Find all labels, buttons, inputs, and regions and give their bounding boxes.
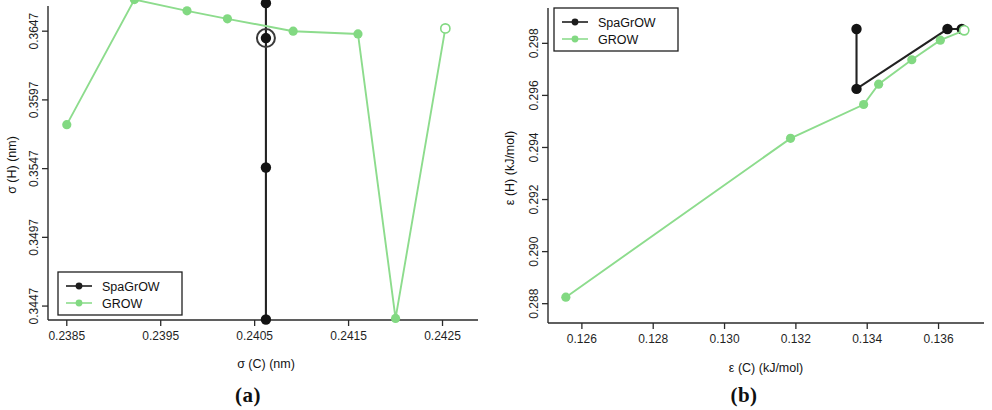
legend-sample-marker-1	[572, 36, 579, 43]
panel-b: 0.1260.1280.1300.1320.1340.1360.2880.290…	[496, 0, 992, 410]
data-point-grow-5	[936, 36, 945, 45]
data-point-spagrow-3	[261, 314, 271, 324]
legend-label-1: GROW	[102, 297, 142, 311]
y-tick-label-4: 0.3647	[27, 13, 41, 50]
panel-a-x-axis-label: σ (C) (nm)	[237, 357, 295, 371]
panel-b-caption: (b)	[496, 383, 992, 408]
data-point-grow-3	[874, 80, 883, 89]
data-point-grow-4	[907, 55, 916, 64]
y-tick-label-5: 0.298	[527, 28, 541, 58]
series-line-grow	[67, 0, 446, 318]
x-tick-label-1: 0.2395	[142, 329, 179, 343]
data-point-spagrow-1	[261, 33, 271, 43]
panel-b-series	[561, 24, 969, 302]
y-tick-label-2: 0.292	[527, 184, 541, 214]
data-point-grow-4	[289, 27, 298, 36]
legend-sample-marker-0	[572, 19, 579, 26]
data-point-grow-5	[353, 29, 362, 38]
data-point-grow-7	[441, 24, 450, 33]
data-point-grow-3	[223, 14, 232, 23]
y-tick-label-4: 0.296	[527, 80, 541, 110]
x-tick-label-0: 0.2385	[48, 329, 85, 343]
data-point-grow-6	[391, 314, 400, 323]
data-point-grow-2	[182, 6, 191, 15]
x-tick-label-3: 0.2415	[330, 329, 367, 343]
y-tick-label-1: 0.290	[527, 236, 541, 266]
data-point-spagrow-0	[261, 0, 271, 8]
data-point-grow-1	[786, 134, 795, 143]
x-tick-label-3: 0.132	[781, 332, 811, 346]
panel-a-legend: SpaGrOWGROW	[58, 272, 182, 315]
data-point-spagrow-2	[261, 162, 271, 172]
series-line-grow	[566, 30, 964, 297]
data-point-spagrow-2	[942, 24, 952, 34]
data-point-spagrow-1	[851, 84, 861, 94]
data-point-spagrow-0	[851, 24, 861, 34]
legend-sample-marker-1	[76, 300, 83, 307]
data-point-grow-0	[561, 293, 570, 302]
panel-a-caption: (a)	[0, 383, 496, 408]
panel-b-y-axis-label: ε (H) (kJ/mol)	[503, 131, 517, 205]
legend-label-1: GROW	[598, 33, 638, 47]
figure-root: 0.23850.23950.24050.24150.24250.34470.34…	[0, 0, 992, 410]
panel-b-x-axis-label: ε (C) (kJ/mol)	[729, 361, 803, 375]
data-point-grow-0	[62, 120, 71, 129]
legend-label-0: SpaGrOW	[102, 280, 160, 294]
x-tick-label-2: 0.2405	[236, 329, 273, 343]
y-tick-label-2: 0.3547	[27, 150, 41, 187]
y-tick-label-0: 0.3447	[27, 287, 41, 324]
y-tick-label-0: 0.288	[527, 288, 541, 318]
x-tick-label-2: 0.130	[710, 332, 740, 346]
panel-b-plot: 0.1260.1280.1300.1320.1340.1360.2880.290…	[496, 0, 992, 380]
panel-a: 0.23850.23950.24050.24150.24250.34470.34…	[0, 0, 496, 410]
y-tick-label-1: 0.3497	[27, 219, 41, 256]
data-point-grow-2	[859, 100, 868, 109]
y-tick-label-3: 0.294	[527, 132, 541, 162]
panel-a-y-axis-label: σ (H) (nm)	[5, 136, 19, 194]
x-tick-label-1: 0.128	[638, 332, 668, 346]
data-point-grow-6	[960, 26, 969, 35]
panel-a-plot: 0.23850.23950.24050.24150.24250.34470.34…	[0, 0, 496, 380]
x-tick-label-4: 0.134	[852, 332, 882, 346]
legend-label-0: SpaGrOW	[598, 16, 656, 30]
x-tick-label-5: 0.136	[924, 332, 954, 346]
y-tick-label-3: 0.3597	[27, 81, 41, 118]
panel-b-legend: SpaGrOWGROW	[554, 8, 678, 51]
x-tick-label-0: 0.126	[567, 332, 597, 346]
legend-sample-marker-0	[76, 283, 83, 290]
x-tick-label-4: 0.2425	[424, 329, 461, 343]
